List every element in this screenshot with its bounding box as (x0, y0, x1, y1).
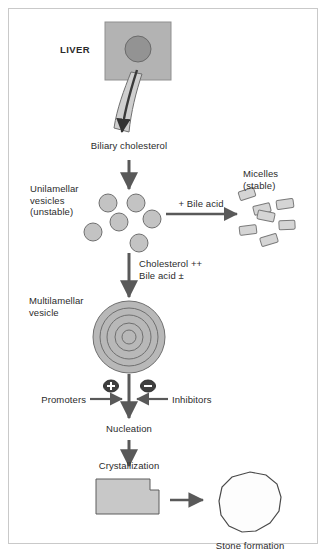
inhibitors-label: Inhibitors (172, 394, 252, 406)
multilamellar-vesicle-label: Multilamellar vesicle (29, 295, 109, 318)
unilamellar-vesicles-label: Unilamellar vesicles (unstable) (30, 183, 105, 218)
promoters-label: Promoters (16, 394, 86, 406)
gallstone-shape (219, 472, 281, 532)
stone-formation-label: Stone formation (195, 540, 305, 552)
liver-label: LIVER (28, 44, 90, 56)
bile-acid-arrow-label: + Bile acid (156, 198, 246, 210)
micelle-group (238, 187, 295, 247)
micelles-label: Micelles (stable) (243, 168, 323, 191)
gallstone-pathway-figure: LIVER Biliary cholesterol Unilamellar ve… (0, 0, 328, 560)
crystal-block-shape (96, 479, 159, 514)
nucleation-label: Nucleation (69, 423, 189, 435)
cholesterol-bile-acid-label: Cholesterol ++ Bile acid ± (139, 258, 249, 281)
liver-nucleus-icon (125, 36, 151, 62)
crystallization-label: Crystallization (64, 460, 194, 472)
biliary-cholesterol-label: Biliary cholesterol (49, 140, 209, 152)
